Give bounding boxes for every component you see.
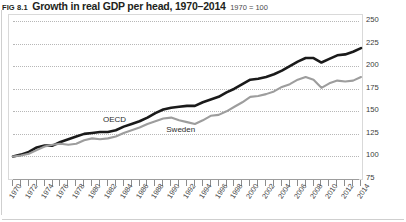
page-title: Growth in real GDP per head, 1970–2014: [32, 0, 226, 12]
series-label-oecd: OECD: [102, 116, 127, 124]
figure-caption: FIG 8.1 Growth in real GDP per head, 197…: [2, 0, 268, 13]
y-tick-label-125: 125: [366, 129, 379, 137]
page-left-rule: [1, 10, 2, 215]
y-tick-label-150: 150: [366, 106, 379, 114]
line-oecd: [13, 48, 361, 156]
y-tick-label-175: 175: [366, 84, 379, 92]
figure-number: FIG 8.1: [2, 3, 28, 12]
x-axis-labels: 1970197219741976197819801982198419861988…: [8, 186, 363, 220]
y-tick-label-200: 200: [366, 61, 379, 69]
figure-container: FIG 8.1 Growth in real GDP per head, 197…: [0, 0, 406, 222]
figure-subtitle: 1970 = 100: [230, 3, 268, 12]
series-lines: [9, 15, 364, 181]
plot-area: OECD Sweden: [8, 14, 363, 180]
series-label-sweden: Sweden: [165, 126, 196, 134]
y-tick-label-100: 100: [366, 152, 379, 160]
y-tick-label-75: 75: [366, 174, 374, 182]
line-sweden: [13, 77, 361, 156]
y-tick-label-225: 225: [366, 39, 379, 47]
page-bottom-rule: [2, 219, 404, 220]
y-tick-label-250: 250: [366, 16, 379, 24]
